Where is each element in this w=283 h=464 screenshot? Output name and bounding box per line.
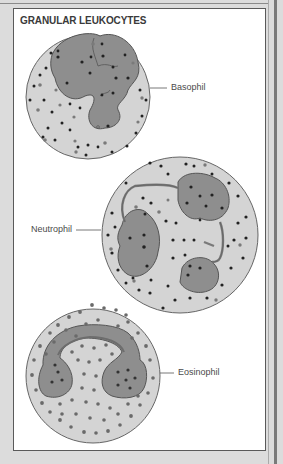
basophil-cell xyxy=(26,34,167,159)
neutrophil-cell xyxy=(76,157,258,313)
neutrophil-label: Neutrophil xyxy=(31,224,72,234)
eosinophil-label: Eosinophil xyxy=(178,367,220,377)
eosinophil-cell xyxy=(26,303,174,443)
basophil-label: Basophil xyxy=(171,82,206,92)
